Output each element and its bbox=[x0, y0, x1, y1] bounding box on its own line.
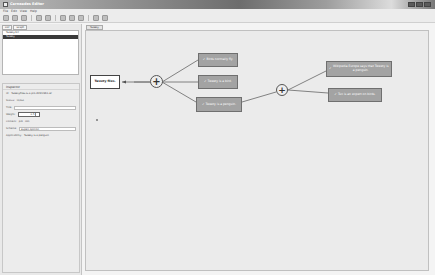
weight-spinner[interactable]: 0.5 bbox=[18, 112, 40, 117]
toolbar-separator bbox=[88, 15, 89, 21]
claim-node[interactable]: Tweety flies. bbox=[90, 75, 120, 89]
undo-icon[interactable] bbox=[36, 15, 42, 21]
window-title: Carneades Editor bbox=[10, 2, 44, 6]
check-icon: ✓ bbox=[329, 67, 332, 71]
argument-node-plus-icon[interactable]: + bbox=[276, 84, 288, 96]
premise-text: Tux is an expert on birds. bbox=[338, 93, 376, 97]
premise-text: Birds normally fly. bbox=[206, 58, 233, 62]
canvas-marker bbox=[96, 119, 98, 121]
premise-node[interactable]: ✓ Tweety is a bird. bbox=[198, 75, 238, 89]
toolbar-separator bbox=[31, 15, 32, 21]
document-tree: Tweety.lkif Tweety bbox=[2, 30, 79, 75]
pro-radio[interactable]: pro bbox=[19, 120, 23, 123]
zoom-in-icon[interactable] bbox=[93, 15, 99, 21]
id-value: Tweetyflies-is-a-pro-d2bf23b1-ef bbox=[11, 92, 51, 95]
weight-label: Weight: bbox=[6, 113, 16, 116]
copy-icon[interactable] bbox=[69, 15, 75, 21]
paste-icon[interactable] bbox=[78, 15, 84, 21]
open-icon[interactable] bbox=[12, 15, 18, 21]
title-label: Title: bbox=[6, 106, 12, 109]
left-panel: Lkif Graph Tweety.lkif Tweety Inspector … bbox=[0, 24, 82, 275]
maximize-button[interactable] bbox=[416, 2, 423, 7]
content-field: Content: pro con bbox=[3, 118, 79, 125]
toolbar bbox=[0, 14, 435, 23]
applicability-field: Applicability: Tweety is a penguin bbox=[3, 132, 79, 139]
scheme-field: Scheme: expert opinion bbox=[3, 125, 79, 132]
applicability-label: Applicability: bbox=[6, 134, 22, 137]
new-icon[interactable] bbox=[3, 15, 9, 21]
zoom-out-icon[interactable] bbox=[102, 15, 108, 21]
check-icon: ✓ bbox=[204, 80, 207, 84]
argument-graph-canvas[interactable]: Tweety flies. + ✓ Birds normally fly. ✓ … bbox=[85, 30, 429, 271]
claim-text: Tweety flies. bbox=[94, 80, 115, 84]
close-button[interactable] bbox=[424, 2, 431, 7]
tab-graph[interactable]: Graph bbox=[13, 25, 27, 30]
scheme-label: Scheme: bbox=[6, 127, 17, 130]
title-field: Title: bbox=[3, 104, 79, 111]
toolbar-separator bbox=[55, 15, 56, 21]
premise-text: Tweety is a bird. bbox=[208, 80, 232, 84]
save-icon[interactable] bbox=[21, 15, 27, 21]
check-icon: ✓ bbox=[334, 93, 337, 97]
minimize-button[interactable] bbox=[408, 2, 415, 7]
argument-node-plus-icon[interactable]: + bbox=[150, 75, 163, 88]
tab-lkif[interactable]: Lkif bbox=[2, 25, 12, 30]
redo-icon[interactable] bbox=[45, 15, 51, 21]
title-input[interactable] bbox=[14, 106, 76, 110]
premise-text: Wikipedia Europe says that Tweety is a p… bbox=[333, 65, 389, 72]
check-icon: ✓ bbox=[203, 58, 206, 62]
cut-icon[interactable] bbox=[60, 15, 66, 21]
app-icon bbox=[3, 2, 8, 7]
premise-node[interactable]: ✓ Tux is an expert on birds. bbox=[328, 88, 382, 102]
status-label: Status: bbox=[6, 99, 15, 102]
inspector-panel: Inspector Id: Tweetyflies-is-a-pro-d2bf2… bbox=[2, 83, 80, 273]
status-field: Status: in/out bbox=[3, 97, 79, 104]
status-value: in/out bbox=[17, 99, 24, 102]
scheme-input[interactable]: expert opinion bbox=[19, 127, 76, 131]
title-bar: Carneades Editor bbox=[0, 0, 435, 9]
con-radio[interactable]: con bbox=[25, 120, 30, 123]
weight-field: Weight: 0.5 bbox=[3, 111, 79, 118]
graph-area: Tweety Tweety flies. + ✓ Birds normally … bbox=[83, 24, 430, 272]
window-controls bbox=[408, 2, 431, 7]
premise-node[interactable]: ✓ Tweety is a penguin. bbox=[196, 97, 242, 112]
applicability-value: Tweety is a penguin bbox=[24, 134, 49, 137]
premise-node[interactable]: ✓ Birds normally fly. bbox=[198, 53, 238, 67]
premise-node[interactable]: ✓ Wikipedia Europe says that Tweety is a… bbox=[326, 61, 392, 77]
premise-text: Tweety is a penguin. bbox=[205, 103, 236, 107]
tree-item-graph[interactable]: Tweety bbox=[3, 35, 78, 39]
id-label: Id: bbox=[6, 92, 9, 95]
content-label: Content: bbox=[6, 120, 17, 123]
id-field: Id: Tweetyflies-is-a-pro-d2bf23b1-ef bbox=[3, 90, 79, 97]
